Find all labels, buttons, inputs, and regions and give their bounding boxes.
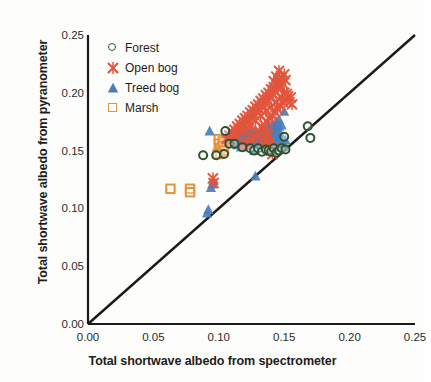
data-point xyxy=(166,185,174,193)
data-point xyxy=(230,140,238,148)
data-point xyxy=(304,122,312,130)
legend-item-forest: Forest xyxy=(104,38,214,58)
data-point xyxy=(199,151,207,159)
data-point xyxy=(306,134,314,142)
triangle-icon xyxy=(104,79,122,97)
legend-item-open-bog: Open bog xyxy=(104,58,214,78)
data-point xyxy=(238,143,246,151)
legend-item-marsh: Marsh xyxy=(104,98,214,118)
legend-label: Forest xyxy=(125,41,159,55)
data-point xyxy=(186,188,194,196)
legend-label: Treed bog xyxy=(125,81,179,95)
chart-legend: Forest Open bog Treed bog xyxy=(104,38,214,118)
legend-label: Marsh xyxy=(125,101,158,115)
data-point xyxy=(203,204,213,214)
circle-open-icon xyxy=(104,39,122,57)
legend-label: Open bog xyxy=(125,61,178,75)
square-open-icon xyxy=(104,99,122,117)
data-point xyxy=(282,145,290,153)
data-point xyxy=(220,150,228,158)
x-cross-icon xyxy=(104,59,122,77)
data-point xyxy=(221,127,229,135)
data-point xyxy=(205,126,215,136)
data-point xyxy=(212,151,220,159)
data-point xyxy=(280,133,288,141)
legend-item-treed-bog: Treed bog xyxy=(104,78,214,98)
